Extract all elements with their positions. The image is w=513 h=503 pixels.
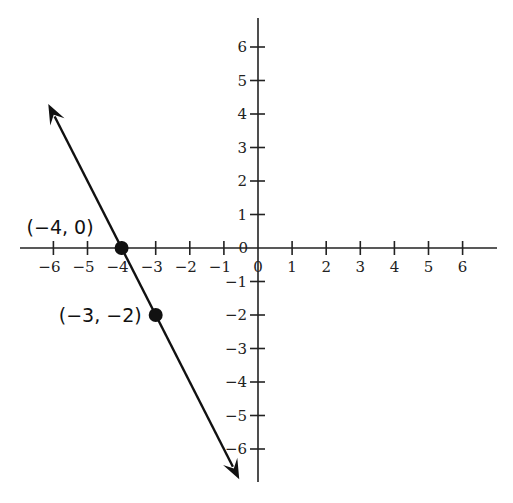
- y-tick-label: 0: [238, 239, 248, 257]
- y-tick-label: 4: [237, 105, 247, 123]
- y-tick-label: 6: [237, 38, 247, 56]
- x-tick-label: 4: [390, 258, 400, 276]
- data-series: [48, 104, 239, 479]
- y-tick-label: −3: [225, 340, 247, 358]
- x-tick-label: 5: [424, 258, 434, 276]
- x-tick-label: 3: [356, 258, 366, 276]
- x-tick-label: −4: [107, 258, 129, 276]
- x-tick-label: 6: [458, 258, 468, 276]
- point-label: (−4, 0): [27, 216, 94, 238]
- x-tick-label: −2: [175, 258, 197, 276]
- y-tick-label: −4: [225, 373, 247, 391]
- x-tick-label: 1: [287, 258, 297, 276]
- axes: [20, 18, 497, 482]
- coordinate-plane-chart: −6−5−4−3−2−10123456−6−5−4−3−2−11234560 (…: [0, 0, 513, 503]
- y-tick-label: 2: [237, 172, 247, 190]
- x-tick-label: −3: [141, 258, 163, 276]
- x-tick-label: 0: [253, 258, 263, 276]
- x-tick-label: −5: [72, 258, 94, 276]
- y-tick-label: −1: [225, 273, 247, 291]
- data-point: [115, 241, 129, 255]
- y-tick-label: −2: [225, 306, 247, 324]
- y-tick-label: −5: [225, 407, 247, 425]
- point-label: (−3, −2): [59, 304, 142, 326]
- y-tick-label: 5: [237, 72, 247, 90]
- graphed-line: [55, 116, 233, 466]
- x-tick-label: 2: [321, 258, 331, 276]
- data-point: [149, 308, 163, 322]
- x-tick-label: −6: [38, 258, 60, 276]
- y-tick-label: 3: [237, 139, 247, 157]
- y-tick-label: 1: [237, 206, 247, 224]
